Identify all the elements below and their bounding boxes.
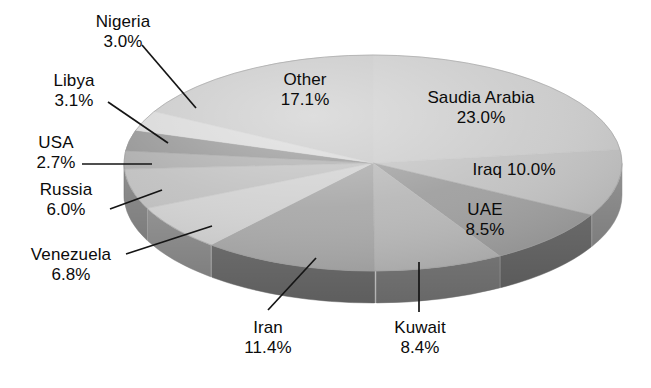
leader-line-nigeria — [142, 45, 196, 108]
pie-chart-figure: Nigeria 3.0% Libya 3.1% USA 2.7% Russia … — [0, 0, 651, 388]
slice-label-venezuela: Venezuela 6.8% — [6, 245, 136, 285]
slice-label-iran-value: 11.4% — [210, 338, 326, 358]
slice-label-saudi-arabia-name: Saudia Arabia — [389, 88, 573, 108]
slice-label-venezuela-value: 6.8% — [6, 265, 136, 285]
slice-label-russia: Russia 6.0% — [13, 180, 119, 220]
slice-label-libya: Libya 3.1% — [24, 71, 124, 111]
slice-label-libya-name: Libya — [24, 71, 124, 91]
slice-label-venezuela-name: Venezuela — [6, 245, 136, 265]
slice-label-uae-value: 8.5% — [439, 220, 531, 240]
slice-label-uae: UAE 8.5% — [439, 200, 531, 240]
slice-label-other-name: Other — [245, 70, 365, 90]
slice-label-nigeria-name: Nigeria — [64, 12, 182, 32]
slice-label-kuwait-value: 8.4% — [364, 338, 476, 358]
slice-label-other-value: 17.1% — [245, 90, 365, 110]
slice-label-usa: USA 2.7% — [10, 133, 102, 173]
slice-label-libya-value: 3.1% — [24, 91, 124, 111]
slice-label-usa-value: 2.7% — [10, 153, 102, 173]
slice-label-saudi-arabia: Saudia Arabia 23.0% — [389, 88, 573, 128]
slice-label-russia-name: Russia — [13, 180, 119, 200]
slice-label-kuwait-name: Kuwait — [364, 318, 476, 338]
slice-label-other: Other 17.1% — [245, 70, 365, 110]
slice-label-iran-name: Iran — [210, 318, 326, 338]
slice-label-iran: Iran 11.4% — [210, 318, 326, 358]
slice-label-kuwait: Kuwait 8.4% — [364, 318, 476, 358]
slice-label-saudi-arabia-value: 23.0% — [389, 108, 573, 128]
slice-label-iraq-value: 10.0% — [507, 160, 556, 179]
slice-label-iraq: Iraq 10.0% — [434, 160, 594, 180]
slice-label-russia-value: 6.0% — [13, 200, 119, 220]
slice-label-uae-name: UAE — [439, 200, 531, 220]
slice-label-nigeria-value: 3.0% — [64, 32, 182, 52]
slice-label-usa-name: USA — [10, 133, 102, 153]
slice-label-nigeria: Nigeria 3.0% — [64, 12, 182, 52]
slice-label-iraq-name: Iraq — [472, 160, 502, 179]
